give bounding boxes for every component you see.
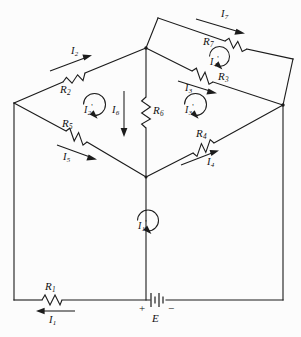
wire-r2-left — [14, 82, 63, 103]
current-label-I3: I3 — [185, 83, 192, 95]
circuit-diagram: R2 R3 R5 R4 R6 R7 R1 I2 I7 I3 I5 I4 I6 I… — [0, 0, 301, 337]
battery-minus-sign: − — [168, 303, 174, 314]
current-label-I5: I5 — [63, 152, 70, 164]
resistor-label-R3: R3 — [218, 71, 229, 84]
node-apex — [144, 46, 147, 49]
battery-label-E: E — [152, 313, 159, 324]
wire-r3-right — [213, 82, 283, 105]
current-label-I4: I4 — [207, 157, 214, 169]
wire-r4-right — [214, 105, 283, 143]
resistor-label-R6: R6 — [153, 105, 164, 118]
current-label-I6: I6 — [112, 105, 119, 117]
wire-flap-left — [146, 18, 158, 48]
resistor-R1-zigzag — [42, 295, 62, 305]
wire-flap-top-left — [158, 18, 225, 41]
resistor-label-R1: R1 — [45, 281, 56, 294]
resistor-label-R7: R7 — [203, 36, 214, 49]
mesh-current-label-I2-prime: I2' — [84, 104, 93, 117]
resistor-R7-zigzag — [225, 38, 247, 51]
current-label-I1: I1 — [49, 315, 56, 327]
resistor-R3-zigzag — [192, 68, 213, 84]
wire-r5-left — [14, 103, 66, 131]
resistor-label-R5: R5 — [62, 118, 73, 131]
resistor-label-R2: R2 — [60, 84, 71, 97]
wire-flap-right — [283, 59, 293, 105]
wire-r3-left — [146, 48, 192, 71]
wire-flap-top-right — [247, 49, 293, 59]
resistor-R6-zigzag — [142, 97, 151, 128]
mesh-current-label-I1-prime: I1' — [138, 220, 147, 233]
mesh-current-label-I4-prime: I4' — [210, 56, 219, 69]
wire-r4-left — [146, 153, 193, 177]
wire-r2-right — [85, 48, 146, 73]
current-label-I2: I2 — [71, 46, 78, 58]
mesh-current-label-I3-prime: I3' — [185, 104, 194, 117]
current-arrow-I7 — [196, 19, 245, 35]
resistor-R2-zigzag — [63, 73, 85, 83]
node-v-bottom — [145, 176, 148, 179]
battery-plus-sign: + — [139, 303, 145, 314]
current-arrow-I1 — [36, 308, 75, 314]
resistor-label-R4: R4 — [196, 128, 207, 141]
current-arrow-I6 — [121, 91, 128, 137]
current-label-I7: I7 — [221, 9, 228, 21]
node-right-vertex — [281, 103, 284, 106]
